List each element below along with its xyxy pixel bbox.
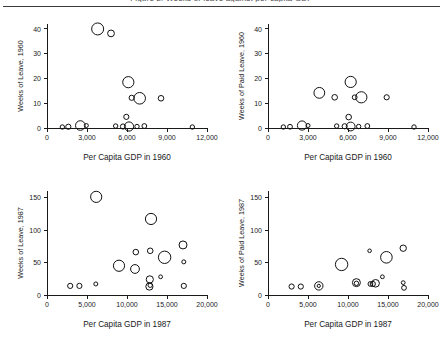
x-tick-label: 12,000: [196, 134, 218, 141]
data-point-bubble: [68, 283, 73, 288]
axis-lines: [268, 24, 428, 128]
x-axis-title: Per Capita GDP in 1960: [83, 153, 171, 162]
x-axis-title: Per Capita GDP in 1960: [304, 153, 392, 162]
scatter-plot-bottom-left: 05,00010,00015,00020,000050100150Per Cap…: [0, 177, 221, 337]
figure-container: Figure 2. Weeks of leave against per cap…: [0, 0, 443, 337]
data-point-bubble: [123, 77, 134, 88]
x-tick-label: 6,000: [118, 134, 136, 141]
data-point-bubble: [381, 252, 393, 264]
y-tick-label: 100: [250, 227, 262, 234]
y-tick-label: 30: [33, 50, 41, 57]
data-point-bubble: [352, 95, 357, 100]
data-point-bubble: [91, 191, 102, 202]
x-tick-label: 10,000: [337, 301, 359, 308]
data-point-bubble: [92, 23, 104, 35]
data-point-bubble: [401, 281, 405, 285]
data-point-bubble: [315, 282, 323, 290]
scatter-plot-bottom-right: 05,00010,00015,00020,000050100150Per Cap…: [221, 177, 442, 337]
data-point-bubble: [76, 121, 86, 131]
data-point-bubble: [281, 125, 285, 129]
data-point-bubble: [412, 125, 416, 129]
panel-bottom-left: 05,00010,00015,00020,000050100150Per Cap…: [0, 177, 221, 337]
x-tick-label: 12,000: [417, 134, 439, 141]
header-rule: [3, 6, 440, 7]
y-axis-title: Weeks of Paid Leave, 1960: [237, 32, 246, 120]
x-tick-label: 15,000: [156, 301, 178, 308]
data-point-bubble: [289, 284, 294, 289]
y-tick-label: 50: [254, 259, 262, 266]
axis-lines: [47, 191, 207, 295]
data-point-bubble: [317, 284, 320, 287]
data-point-bubble: [158, 251, 170, 263]
data-point-bubble: [146, 276, 153, 283]
y-tick-label: 30: [254, 50, 262, 57]
x-tick-label: 5,000: [78, 301, 96, 308]
x-tick-label: 0: [45, 301, 49, 308]
y-tick-label: 40: [33, 26, 41, 33]
x-tick-label: 20,000: [417, 301, 439, 308]
data-point-bubble: [181, 283, 186, 288]
y-tick-label: 0: [258, 125, 262, 132]
x-tick-label: 0: [266, 301, 270, 308]
y-tick-label: 100: [29, 227, 41, 234]
data-point-bubble: [77, 283, 82, 288]
x-tick-label: 5,000: [299, 301, 317, 308]
data-point-bubble: [297, 121, 306, 130]
y-axis-title: Weeks of Leave, 1987: [16, 207, 25, 278]
scatter-plot-top-left: 03,0006,0009,00012,000010203040Per Capit…: [0, 10, 221, 170]
data-point-bubble: [147, 248, 153, 254]
y-tick-label: 0: [258, 292, 262, 299]
data-point-bubble: [113, 260, 124, 271]
y-tick-label: 150: [29, 194, 41, 201]
data-point-bubble: [368, 249, 372, 253]
x-tick-label: 6,000: [339, 134, 357, 141]
data-point-bubble: [298, 284, 303, 289]
x-tick-label: 3,000: [78, 134, 96, 141]
y-tick-label: 10: [33, 100, 41, 107]
data-point-bubble: [384, 95, 389, 100]
clipped-caption: Figure 2. Weeks of leave against per cap…: [0, 0, 443, 2]
data-point-bubble: [60, 125, 64, 129]
data-point-bubble: [381, 275, 385, 279]
data-point-bubble: [159, 275, 163, 279]
x-axis-title: Per Capita GDP in 1987: [304, 320, 392, 329]
data-point-bubble: [124, 114, 129, 119]
data-point-bubble: [345, 76, 356, 87]
y-tick-label: 20: [33, 75, 41, 82]
y-tick-label: 10: [254, 100, 262, 107]
data-point-bubble: [94, 282, 98, 286]
y-axis-title: Weeks of Leave, 1960: [16, 40, 25, 111]
data-point-bubble: [158, 95, 164, 101]
axis-lines: [47, 24, 207, 128]
x-tick-label: 0: [266, 134, 270, 141]
x-tick-label: 20,000: [196, 301, 218, 308]
x-tick-label: 3,000: [299, 134, 317, 141]
data-point-bubble: [400, 245, 406, 251]
y-tick-label: 0: [37, 125, 41, 132]
x-tick-label: 10,000: [116, 301, 138, 308]
data-point-bubble: [354, 281, 358, 285]
y-tick-label: 0: [37, 292, 41, 299]
scatter-plot-top-right: 03,0006,0009,00012,000010203040Per Capit…: [221, 10, 442, 170]
panel-top-left: 03,0006,0009,00012,000010203040Per Capit…: [0, 10, 221, 170]
data-point-bubble: [402, 285, 407, 290]
data-point-bubble: [108, 30, 115, 37]
panel-bottom-right: 05,00010,00015,00020,000050100150Per Cap…: [221, 177, 442, 337]
y-tick-label: 50: [33, 259, 41, 266]
data-point-bubble: [182, 260, 186, 264]
data-point-bubble: [148, 283, 152, 287]
data-point-bubble: [335, 258, 347, 270]
data-point-bubble: [179, 241, 187, 249]
data-point-bubble: [131, 265, 140, 274]
y-tick-label: 20: [254, 75, 262, 82]
x-tick-label: 9,000: [158, 134, 176, 141]
data-point-bubble: [145, 213, 156, 224]
data-point-bubble: [190, 125, 194, 129]
data-point-bubble: [314, 87, 325, 98]
x-tick-label: 15,000: [377, 301, 399, 308]
y-tick-label: 40: [254, 26, 262, 33]
panel-top-right: 03,0006,0009,00012,000010203040Per Capit…: [221, 10, 442, 170]
y-axis-title: Weeks of Paid Leave, 1987: [237, 199, 246, 287]
data-point-bubble: [134, 92, 146, 104]
data-point-bubble: [66, 124, 71, 129]
